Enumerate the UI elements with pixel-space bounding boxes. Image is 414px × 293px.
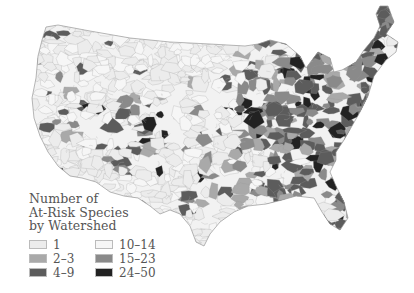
watershed xyxy=(378,179,402,193)
watershed-boundary xyxy=(378,107,384,111)
watershed xyxy=(353,224,373,232)
watershed xyxy=(331,231,352,244)
watershed xyxy=(162,12,174,23)
watershed xyxy=(365,111,386,117)
watershed xyxy=(293,34,306,45)
watershed xyxy=(168,228,184,243)
watershed xyxy=(378,73,392,80)
watershed xyxy=(374,189,393,200)
watershed-boundary xyxy=(300,212,304,216)
watershed xyxy=(176,238,194,244)
watershed xyxy=(233,221,255,229)
watershed xyxy=(362,154,376,162)
watershed-boundary xyxy=(245,213,252,216)
watershed xyxy=(387,35,402,46)
watershed xyxy=(322,234,330,244)
watershed xyxy=(155,11,176,20)
watershed xyxy=(267,207,275,220)
watershed-boundary xyxy=(302,233,307,234)
watershed xyxy=(285,232,297,241)
watershed xyxy=(348,6,361,16)
watershed xyxy=(216,17,226,26)
watershed xyxy=(260,33,274,41)
watershed-boundary xyxy=(346,31,351,34)
watershed-boundary xyxy=(327,9,330,13)
watershed-boundary xyxy=(227,32,229,34)
watershed xyxy=(356,206,366,215)
watershed-boundary xyxy=(28,137,35,140)
watershed xyxy=(363,175,373,181)
watershed xyxy=(366,91,386,102)
watershed-boundary xyxy=(365,183,369,185)
watershed xyxy=(290,199,309,204)
watershed xyxy=(285,204,296,213)
watershed-boundary xyxy=(43,148,45,150)
watershed xyxy=(262,28,276,36)
watershed xyxy=(171,23,193,31)
watershed xyxy=(305,206,322,221)
watershed xyxy=(297,207,314,223)
watershed-boundary xyxy=(169,32,170,36)
legend-swatch xyxy=(29,268,47,277)
watershed xyxy=(255,215,269,220)
watershed xyxy=(156,24,173,37)
watershed xyxy=(347,184,367,193)
legend-swatch xyxy=(95,268,113,277)
watershed xyxy=(320,239,327,248)
watershed xyxy=(373,224,389,235)
watershed xyxy=(376,126,396,134)
watershed xyxy=(338,155,356,167)
watershed xyxy=(383,85,390,92)
legend-title: Number of At-Risk Species by Watershed xyxy=(29,192,165,233)
watershed xyxy=(396,134,406,151)
watershed xyxy=(47,15,57,19)
watershed-boundary xyxy=(38,146,40,151)
watershed xyxy=(257,22,271,38)
watershed-boundary xyxy=(316,222,321,224)
watershed xyxy=(36,7,45,14)
watershed xyxy=(166,16,176,21)
watershed xyxy=(281,241,299,249)
watershed xyxy=(184,247,195,252)
watershed-boundary xyxy=(49,160,53,162)
watershed xyxy=(385,219,396,229)
watershed xyxy=(358,167,367,174)
watershed xyxy=(85,14,104,26)
watershed xyxy=(353,155,359,160)
watershed xyxy=(142,18,151,32)
watershed xyxy=(151,29,167,41)
watershed xyxy=(348,203,357,210)
watershed-boundary xyxy=(360,117,365,121)
watershed-boundary xyxy=(207,5,209,7)
watershed xyxy=(328,34,346,48)
legend-item: 1 xyxy=(29,239,95,251)
watershed xyxy=(85,10,97,26)
watershed xyxy=(146,10,153,16)
watershed xyxy=(364,32,372,39)
watershed-boundary xyxy=(48,20,51,21)
watershed-boundary xyxy=(245,26,252,27)
watershed xyxy=(370,231,379,240)
watershed xyxy=(41,167,52,173)
watershed xyxy=(348,203,360,220)
watershed xyxy=(191,7,199,18)
watershed-boundary xyxy=(272,24,275,28)
watershed xyxy=(266,230,276,235)
watershed-boundary xyxy=(294,44,298,45)
watershed-boundary xyxy=(346,62,351,65)
watershed xyxy=(331,34,345,44)
watershed-boundary xyxy=(363,120,369,125)
watershed-boundary xyxy=(225,233,231,236)
watershed xyxy=(367,178,377,193)
watershed xyxy=(303,35,317,40)
watershed xyxy=(276,215,284,231)
watershed xyxy=(40,167,57,182)
watershed xyxy=(139,15,154,27)
watershed xyxy=(363,10,374,16)
watershed xyxy=(335,24,353,34)
watershed-boundary xyxy=(395,126,397,128)
watershed xyxy=(275,29,293,36)
watershed-boundary xyxy=(361,219,364,222)
watershed xyxy=(170,222,178,230)
watershed xyxy=(387,158,400,166)
